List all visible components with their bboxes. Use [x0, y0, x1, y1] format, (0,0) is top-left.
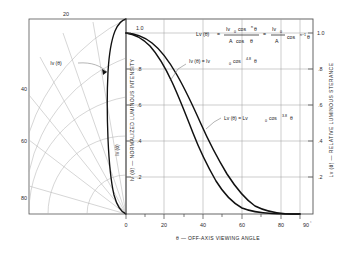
right-axis-title: Lv (θ) — RELATIVE LUMINOUS STERANCE	[328, 62, 334, 177]
x-axis-ticks	[126, 214, 300, 219]
horizontal-gridlines	[126, 33, 313, 177]
equation-lhs: Lv (θ)	[196, 31, 210, 37]
polar-radial-label-80: 80	[21, 195, 27, 201]
x-tick-label-60: 60	[239, 222, 245, 228]
x-tick-label-20: 20	[161, 222, 167, 228]
right-tick-label-2: .8	[318, 66, 323, 72]
left-tick-label-1: 1.0	[136, 25, 144, 31]
equation-den2-a: A	[275, 38, 279, 44]
equation-den1-cos: cos	[236, 38, 244, 44]
annotation-iv-text: Iv (θ) = Iv	[189, 58, 210, 64]
left-tick-label-4: .4	[137, 138, 142, 144]
polar-radial-label-40: 40	[21, 86, 27, 92]
equation-num2-iv: Iv	[272, 26, 276, 32]
polar-curve-label: Iv (θ)	[50, 60, 62, 66]
left-axis-title: Iv (θ) — NORMALIZED LUMINOUS INTENSITY	[129, 59, 135, 182]
x-tick-label-80: 80	[278, 222, 284, 228]
equation-num1-sub: 0	[234, 30, 236, 34]
right-tick-label-3: .6	[318, 102, 323, 108]
annotation-lv-leader	[206, 118, 221, 129]
vertical-gridlines	[164, 19, 281, 214]
equation-rhs-theta: θ	[307, 34, 310, 40]
equation-num1-cos: cos	[238, 26, 246, 32]
equation-rhs-cos: cos	[287, 34, 295, 40]
annotation-lv-curve: Lv (θ) = Lv 0 cos 3.8 θ	[206, 114, 293, 130]
annotation-lv-cos: cos	[269, 115, 277, 121]
x-tick-label-0: 0	[125, 222, 128, 228]
right-tick-label-5: .2	[318, 174, 323, 180]
equation-num1-sup: n	[251, 25, 253, 29]
equation-equals-2: =	[263, 31, 266, 37]
annotation-lv-sub: 0	[265, 119, 267, 123]
annotation-iv-theta: θ	[254, 58, 257, 64]
figure-root: 20 40 60 80 Iv (θ) Iv (θ)	[0, 0, 346, 262]
x-tick-degree-symbol: °	[310, 221, 312, 225]
annotation-lv-sup: 3.8	[282, 114, 287, 118]
annotation-lv-text: Lv (θ) = Lv	[224, 115, 248, 121]
x-axis-title: θ — OFF-AXIS VIEWING ANGLE	[176, 235, 260, 241]
right-tick-label-4: .4	[318, 138, 323, 144]
equation-den1-a: A	[229, 38, 233, 44]
left-tick-label-2: .8	[137, 66, 142, 72]
right-axis-ticks	[308, 33, 313, 177]
left-tick-label-5: .2	[137, 174, 142, 180]
equation-num1-theta: θ	[254, 26, 257, 32]
photometric-chart: 20 40 60 80 Iv (θ) Iv (θ)	[0, 0, 346, 262]
x-tick-label-90: 90	[303, 222, 309, 228]
curve-lv-cos38	[126, 33, 300, 214]
equation-equals: =	[217, 31, 220, 37]
annotation-lv-theta: θ	[290, 115, 293, 121]
x-tick-label-40: 40	[200, 222, 206, 228]
polar-axis-label: Iv (θ)	[114, 144, 120, 156]
polar-radial-label-60: 60	[21, 138, 27, 144]
curve-iv-cos48	[126, 33, 300, 214]
equation-den1-theta: θ	[250, 38, 253, 44]
right-tick-label-1: 1.0	[317, 30, 325, 36]
equation-rhs-sup: n−1	[300, 33, 306, 37]
polar-panel: 20 40 60 80 Iv (θ) Iv (θ)	[21, 11, 126, 214]
equation-num1-iv: Iv	[226, 26, 230, 32]
annotation-iv-sub: 0	[229, 62, 231, 66]
equation-num2-sub: 0	[280, 30, 282, 34]
polar-radial-label-20: 20	[63, 11, 69, 17]
cartesian-panel: 1.0 .8 .6 .4 .2 1.0 .8 .6 .4 .2 0 20 40 …	[125, 19, 335, 241]
annotation-iv-cos: cos	[233, 58, 241, 64]
main-equation: Lv (θ) = Iv 0 cos n θ A cos θ = Iv 0 A	[196, 25, 310, 44]
annotation-iv-sup: 4.8	[246, 57, 251, 61]
left-tick-label-3: .6	[137, 102, 142, 108]
